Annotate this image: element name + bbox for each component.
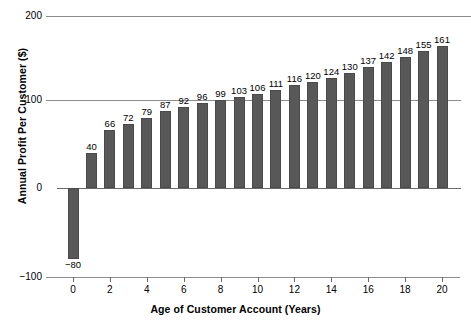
x-tick-label-16: 16 [353, 284, 383, 295]
x-tick-2 [110, 277, 111, 282]
x-tick-6 [184, 277, 185, 282]
bar-value-label-year-20: 161 [429, 35, 455, 45]
bar-value-label-year-1: 40 [78, 142, 104, 152]
x-tick-14 [331, 277, 332, 282]
x-tick-label-14: 14 [316, 284, 346, 295]
x-tick-8 [221, 277, 222, 282]
bar-year-16 [363, 67, 374, 188]
bar-chart: Annual Profit Per Customer ($) 200 100 0… [0, 0, 471, 325]
x-tick-label-10: 10 [243, 284, 273, 295]
x-tick-20 [442, 277, 443, 282]
bar-year-9 [234, 97, 245, 188]
bar-year-2 [104, 130, 115, 188]
bar-year-5 [160, 111, 171, 188]
x-tick-label-20: 20 [427, 284, 457, 295]
bar-year-19 [418, 51, 429, 188]
x-tick-16 [368, 277, 369, 282]
bar-year-3 [123, 124, 134, 188]
x-tick-10 [258, 277, 259, 282]
bar-year-0 [68, 188, 79, 259]
bar-year-4 [141, 118, 152, 188]
x-tick-4 [147, 277, 148, 282]
bar-year-7 [197, 103, 208, 188]
bar-year-6 [178, 107, 189, 188]
bar-year-20 [437, 46, 448, 188]
x-tick-18 [405, 277, 406, 282]
bar-year-17 [381, 62, 392, 188]
x-tick-label-6: 6 [169, 284, 199, 295]
bar-year-13 [307, 82, 318, 188]
bar-year-8 [215, 100, 226, 188]
x-tick-label-4: 4 [132, 284, 162, 295]
bar-year-15 [344, 73, 355, 188]
x-tick-label-12: 12 [279, 284, 309, 295]
bar-year-11 [270, 90, 281, 188]
bar-year-10 [252, 94, 263, 188]
x-axis-title: Age of Customer Account (Years) [0, 303, 471, 315]
bar-year-18 [400, 57, 411, 188]
bar-year-12 [289, 85, 300, 188]
x-tick-label-2: 2 [95, 284, 125, 295]
x-tick-12 [294, 277, 295, 282]
x-tick-label-8: 8 [206, 284, 236, 295]
bar-year-14 [326, 78, 337, 188]
plot-area: −804066727987929699103106111116120124130… [0, 0, 471, 325]
x-tick-0 [73, 277, 74, 282]
bar-year-1 [86, 153, 97, 188]
bar-value-label-year-0: −80 [60, 260, 86, 270]
x-tick-label-18: 18 [390, 284, 420, 295]
x-tick-label-0: 0 [58, 284, 88, 295]
